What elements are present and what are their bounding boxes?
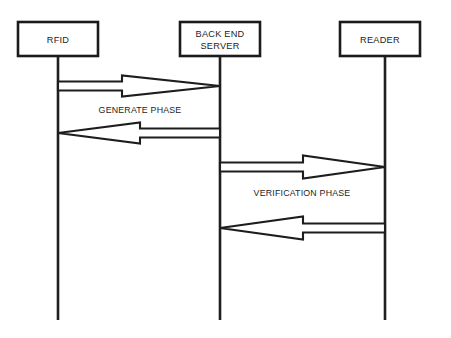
actor-label-back-end-server-line1: BACK END [196,29,245,39]
actor-label-rfid: RFID [47,35,70,45]
sequence-diagram-canvas: RFID BACK END SERVER READER GENERATE PHA… [0,0,451,338]
phase-label-verification: VERIFICATION PHASE [254,188,351,198]
sequence-diagram-svg: RFID BACK END SERVER READER GENERATE PHA… [0,0,451,338]
actor-label-back-end-server-line2: SERVER [200,41,239,51]
message-arrow-server-to-rfid[interactable] [58,123,220,144]
message-arrow-rfid-to-server[interactable] [58,76,220,97]
message-arrow-reader-to-server[interactable] [220,217,385,240]
phase-label-generate: GENERATE PHASE [99,105,182,115]
message-arrow-server-to-reader[interactable] [220,156,385,179]
actor-label-reader: READER [360,35,400,45]
